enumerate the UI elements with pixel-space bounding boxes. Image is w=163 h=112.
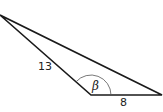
triangle-shape	[0, 15, 162, 95]
triangle-diagram: 13 8 β	[0, 0, 163, 112]
side-label-8: 8	[120, 96, 127, 109]
side-label-13: 13	[38, 60, 52, 73]
angle-label-beta: β	[91, 79, 99, 93]
